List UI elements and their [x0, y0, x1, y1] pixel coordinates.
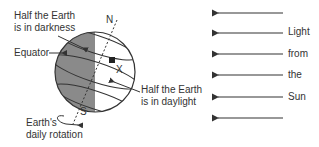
- sunlight-word-1: Light: [288, 26, 310, 38]
- north-label: N: [106, 14, 113, 26]
- darkness-label-line1: Half the Earth: [14, 10, 75, 22]
- sunlight-word-2: from: [288, 48, 308, 60]
- earth-globe: [48, 20, 142, 124]
- equator-label: Equator: [14, 47, 49, 59]
- darkness-label-line2: is in darkness: [14, 22, 75, 34]
- daylight-label-line2: is in daylight: [141, 96, 196, 108]
- sunlight-arrows: [218, 13, 283, 118]
- dark-half: [55, 30, 95, 114]
- rotation-label-line2: daily rotation: [26, 129, 83, 141]
- point-x-label: X: [116, 64, 123, 76]
- south-label: S: [80, 106, 87, 118]
- sunlight-word-4: Sun: [288, 91, 306, 103]
- sunlight-word-3: the: [288, 69, 302, 81]
- daylight-label-line1: Half the Earth: [141, 84, 202, 96]
- rotation-label-line1: Earth's: [26, 117, 57, 129]
- point-x-marker: [109, 57, 115, 63]
